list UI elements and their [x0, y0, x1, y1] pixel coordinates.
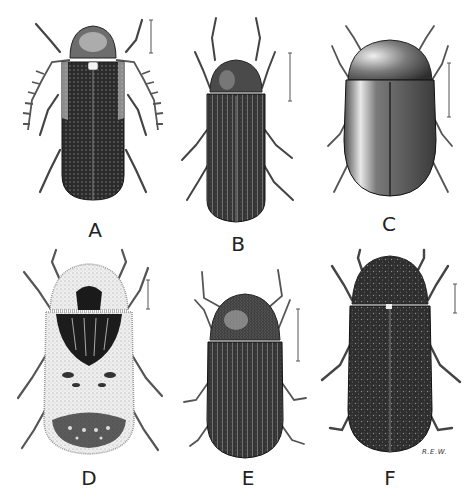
beetle-d: [18, 250, 162, 454]
scale-bar-d: [146, 280, 150, 309]
label-f: F: [384, 466, 396, 490]
beetle-a: [23, 20, 163, 200]
beetle-f: [322, 250, 460, 452]
label-b: B: [231, 232, 245, 256]
scale-bar-a: [149, 20, 153, 53]
scale-bar-e: [296, 309, 300, 361]
beetle-illustration-plate: A B C D E F R.E.W.: [0, 0, 476, 503]
beetle-e: [184, 270, 306, 458]
beetle-b: [182, 18, 293, 222]
label-a: A: [88, 218, 102, 242]
artist-signature: R.E.W.: [422, 448, 447, 456]
scale-bar-c: [447, 63, 451, 117]
scale-bar-b: [288, 53, 292, 101]
beetle-c: [328, 26, 452, 196]
label-e: E: [242, 466, 255, 490]
label-c: C: [382, 212, 396, 236]
label-d: D: [81, 466, 96, 490]
scale-bar-f: [453, 284, 457, 313]
